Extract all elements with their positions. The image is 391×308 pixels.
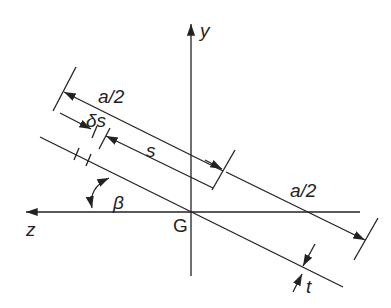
origin-label: G	[173, 215, 188, 236]
diagram-canvas: y z G a/2 a/2 s δs t β	[0, 0, 391, 308]
z-axis-label: z	[25, 219, 36, 240]
y-axis-label: y	[198, 20, 211, 41]
a-half-label-upper: a/2	[98, 86, 125, 107]
angle-label: β	[112, 192, 124, 213]
end-tick-left	[53, 67, 76, 111]
angle-arc	[91, 178, 109, 208]
delta-s-label: δs	[86, 110, 107, 131]
end-tick-right	[354, 218, 378, 260]
a-half-label-lower: a/2	[290, 180, 317, 201]
s-start-tick	[99, 128, 110, 149]
mid-tick	[212, 150, 235, 190]
thickness-label: t	[306, 276, 312, 297]
s-label: s	[146, 140, 156, 161]
s-dimension	[99, 128, 221, 188]
diagram: y z G a/2 a/2 s δs t β	[0, 0, 391, 308]
